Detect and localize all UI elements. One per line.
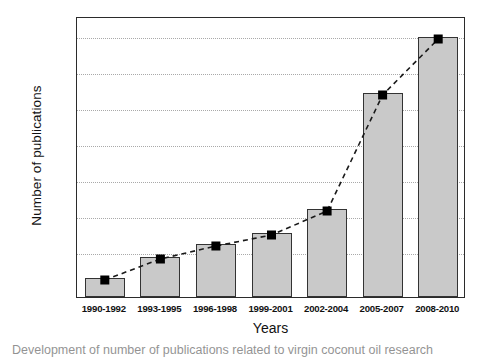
y-axis-title: Number of publications: [29, 41, 44, 271]
x-axis-tick-labels: 1990-19921993-19951996-19981999-20012002…: [76, 303, 465, 319]
x-axis-title: Years: [76, 320, 465, 336]
bar: [85, 278, 125, 297]
x-tick-label: 1999-2001: [243, 303, 299, 314]
x-tick-label: 1993-1995: [132, 303, 188, 314]
bar: [418, 37, 458, 297]
x-tick-label: 1996-1998: [187, 303, 243, 314]
x-tick-label: 2002-2004: [298, 303, 354, 314]
bar: [363, 93, 403, 297]
bar-group: [77, 18, 464, 297]
bar: [307, 209, 347, 297]
x-tick-label: 1990-1992: [76, 303, 132, 314]
x-tick-label: 2008-2010: [409, 303, 465, 314]
figure-caption: Development of number of publications re…: [12, 343, 492, 357]
bar: [196, 244, 236, 297]
plot-area: [76, 17, 465, 298]
bar: [252, 233, 292, 297]
x-tick-label: 2005-2007: [354, 303, 410, 314]
bar: [140, 257, 180, 297]
